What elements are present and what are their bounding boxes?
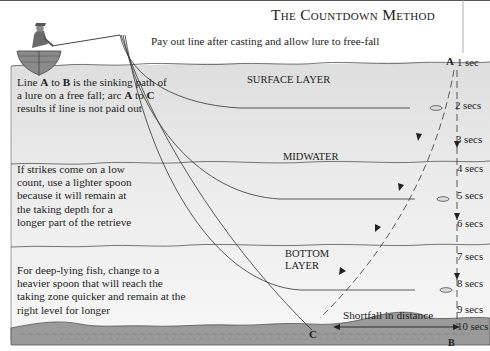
surface-note: Line A to B is the sinking path of a lur… <box>17 76 167 116</box>
countdown-tick: 8 secs <box>457 277 483 289</box>
point-b: B <box>448 337 455 348</box>
countdown-tick: 4 secs <box>457 162 483 174</box>
lure-bottom <box>440 288 452 293</box>
countdown-method-diagram: The Countdown Method Pay out line after … <box>0 0 490 351</box>
shortfall-label: Shortfall in distance <box>343 309 433 321</box>
midwater-note: If strikes come on a low count, use a li… <box>17 163 137 229</box>
countdown-tick: 1 sec <box>457 56 479 68</box>
lure-midwater <box>437 197 449 202</box>
bottom-note: For deep-lying fish, change to a heavier… <box>17 264 187 317</box>
diagram-subtitle: Pay out line after casting and allow lur… <box>151 35 379 47</box>
surface-layer-label: SURFACE LAYER <box>247 74 330 86</box>
countdown-tick: 9 secs <box>457 303 483 315</box>
point-a: A <box>446 55 454 67</box>
countdown-tick: 5 secs <box>457 189 483 201</box>
countdown-tick: 10 secs <box>457 320 488 332</box>
diagram-title: The Countdown Method <box>271 6 435 24</box>
countdown-tick: 3 secs <box>456 133 482 145</box>
countdown-tick: 6 secs <box>457 217 483 229</box>
midwater-label: MIDWATER <box>283 151 338 163</box>
bottom-layer-label-line1: BOTTOM <box>285 248 329 260</box>
lure-surface <box>430 106 442 111</box>
bottom-layer-label-line2: LAYER <box>285 260 319 272</box>
point-c: C <box>309 328 317 340</box>
countdown-tick: 7 secs <box>457 250 483 262</box>
countdown-tick: 2 secs <box>455 99 481 111</box>
